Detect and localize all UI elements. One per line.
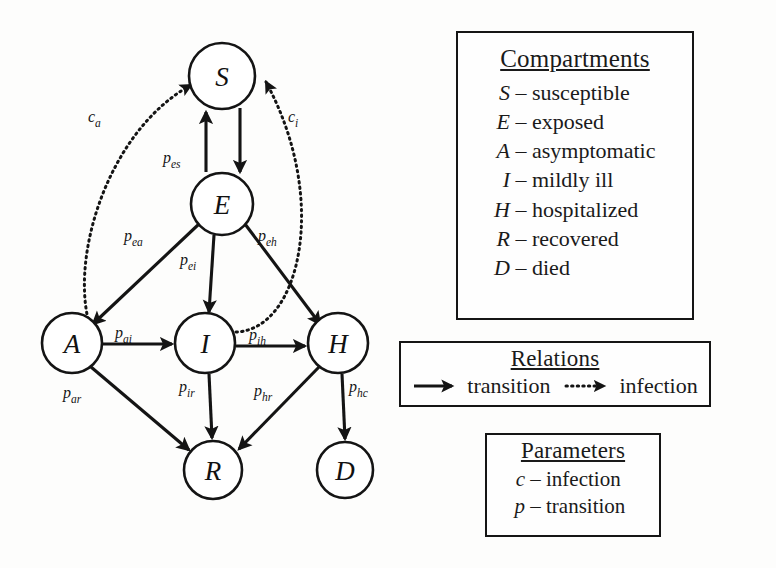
relation-label: infection [619,373,697,399]
panel-title-relations: Relations [401,346,709,372]
figure-canvas: SEAIHRD pespeapeipehpaipihparpirphrphcca… [0,0,776,568]
transition-arrow-icon [412,378,464,394]
compartment-row-d: D – died [488,254,692,282]
node-e[interactable]: E [191,173,253,235]
legend-text: – transition [525,494,625,518]
relation-item-transition: transition [412,373,550,399]
edge-h-to-r [239,367,319,449]
edge-label-hr: phr [253,382,273,403]
edge-label-ir: pir [178,378,195,399]
parameter-row-c: c – infection [511,466,659,493]
legend-symbol: I [488,166,510,194]
edge-label-ea: pea [123,227,143,248]
legend-panel-relations: Relations transitioninfection [399,341,711,407]
edge-label-hc: phc [348,378,368,399]
relation-item-infection: infection [564,373,697,399]
edge-label-es: pes [162,149,181,170]
legend-symbol: E [488,108,510,136]
node-label-h: H [327,329,349,359]
legend-symbol: S [488,79,510,107]
node-h[interactable]: H [308,313,368,373]
legend-text: – infection [525,467,621,491]
edge-label-ar: par [62,384,82,405]
infection-arrow-icon [564,378,616,394]
compartment-row-r: R – recovered [488,225,692,253]
panel-title-parameters: Parameters [487,438,659,464]
edge-a-to-r [91,367,189,450]
legend-text: – mildly ill [510,167,613,192]
compartment-row-h: H – hospitalized [488,196,692,224]
legend-panel-parameters: Parameters c – infectionp – transition [485,433,661,537]
legend-panel-compartments: Compartments S – susceptibleE – exposedA… [456,31,694,320]
legend-text: – died [510,255,570,280]
legend-symbol: p [511,493,525,520]
legend-symbol: R [488,225,510,253]
edge-label-ci: ci [288,108,298,129]
legend-symbol: A [488,137,510,165]
legend-text: – susceptible [510,80,630,105]
edge-label-ih: pih [248,326,266,347]
node-a[interactable]: A [42,313,102,373]
edge-e-to-h [245,224,320,324]
legend-symbol: c [511,466,525,493]
node-d[interactable]: D [317,442,373,498]
edge-h-to-d [342,374,345,439]
legend-text: – recovered [510,226,619,251]
compartment-row-s: S – susceptible [488,79,692,107]
node-label-d: D [334,456,355,486]
node-label-s: S [215,62,229,92]
panel-title-compartments: Compartments [458,45,692,73]
compartment-row-e: E – exposed [488,108,692,136]
compartment-row-i: I – mildly ill [488,166,692,194]
edge-e-to-i [209,235,214,312]
edge-label-ei: pei [179,251,196,272]
compartment-row-a: A – asymptomatic [488,137,692,165]
compartments-list: S – susceptibleE – exposedA – asymptomat… [458,79,692,282]
legend-symbol: H [488,196,510,224]
edge-e-to-a [93,224,199,324]
edge-i-to-r [209,374,212,438]
relations-list: transitioninfection [401,373,709,399]
node-s[interactable]: S [189,43,255,109]
node-r[interactable]: R [184,441,242,499]
edges-layer [84,82,345,450]
node-label-e: E [213,190,231,220]
edge-label-ai: pai [114,324,132,345]
parameters-list: c – infectionp – transition [487,466,659,521]
node-label-r: R [204,456,222,486]
edge-label-ca: ca [88,108,101,129]
node-i[interactable]: I [175,313,235,373]
legend-text: – hospitalized [510,197,638,222]
parameter-row-p: p – transition [511,493,659,520]
relation-label: transition [467,373,550,399]
node-label-a: A [62,329,81,359]
legend-symbol: D [488,254,510,282]
legend-text: – exposed [510,109,604,134]
legend-text: – asymptomatic [510,138,655,163]
